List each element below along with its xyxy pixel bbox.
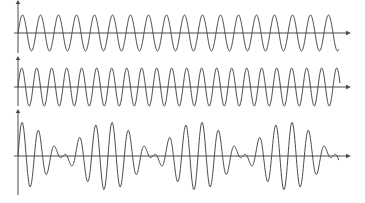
- beat-wave-panel: [14, 109, 351, 195]
- upper-wave-panel: [14, 0, 351, 53]
- y-axis-arrowhead: [16, 0, 21, 4]
- beats-waveform-figure: [0, 0, 365, 203]
- x-axis-arrowhead: [346, 31, 351, 36]
- y-axis-arrowhead: [16, 109, 21, 113]
- y-axis-arrowhead: [16, 56, 21, 60]
- x-axis-arrowhead: [346, 85, 351, 90]
- waveform-svg: [0, 0, 365, 203]
- middle-wave-panel: [14, 56, 351, 106]
- x-axis-arrowhead: [346, 154, 351, 159]
